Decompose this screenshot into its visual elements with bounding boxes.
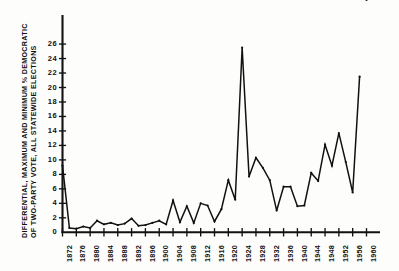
data-point bbox=[130, 217, 132, 219]
data-point bbox=[234, 199, 236, 201]
data-series-line bbox=[63, 48, 360, 229]
data-point bbox=[206, 204, 208, 206]
data-point bbox=[282, 186, 284, 188]
data-point bbox=[248, 175, 250, 177]
data-point bbox=[358, 76, 360, 78]
data-point bbox=[365, 0, 367, 1]
data-point bbox=[310, 172, 312, 174]
data-point bbox=[241, 47, 243, 49]
data-point bbox=[110, 222, 112, 224]
data-point bbox=[289, 186, 291, 188]
data-point bbox=[179, 221, 181, 223]
data-point bbox=[82, 225, 84, 227]
data-point bbox=[220, 208, 222, 210]
data-point bbox=[193, 222, 195, 224]
data-point bbox=[255, 157, 257, 159]
data-point bbox=[213, 220, 215, 222]
data-point bbox=[151, 222, 153, 224]
chart-plot-area bbox=[0, 0, 399, 271]
data-point bbox=[331, 165, 333, 167]
data-point bbox=[137, 225, 139, 227]
data-point bbox=[200, 202, 202, 204]
data-point bbox=[269, 179, 271, 181]
data-point bbox=[303, 204, 305, 206]
data-point bbox=[75, 228, 77, 230]
data-point bbox=[172, 199, 174, 201]
data-point bbox=[352, 191, 354, 193]
data-point bbox=[338, 132, 340, 134]
data-point bbox=[276, 209, 278, 211]
data-point bbox=[144, 224, 146, 226]
data-point bbox=[345, 161, 347, 163]
data-point bbox=[324, 144, 326, 146]
data-point bbox=[296, 205, 298, 207]
data-series-markers bbox=[61, 0, 367, 230]
data-point bbox=[89, 227, 91, 229]
data-point bbox=[103, 223, 105, 225]
data-point bbox=[124, 223, 126, 225]
data-point bbox=[61, 165, 63, 167]
data-point bbox=[68, 227, 70, 229]
data-point bbox=[262, 167, 264, 169]
data-point bbox=[117, 224, 119, 226]
chart-container: DIFFERENTIAL, MAXIMUM AND MINIMUM % DEMO… bbox=[0, 0, 399, 271]
data-point bbox=[165, 223, 167, 225]
data-point bbox=[96, 220, 98, 222]
data-point bbox=[186, 205, 188, 207]
data-point bbox=[317, 180, 319, 182]
chart-axes bbox=[62, 15, 381, 233]
data-point bbox=[158, 220, 160, 222]
data-point bbox=[227, 179, 229, 181]
